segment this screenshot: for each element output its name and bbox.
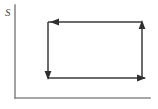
diagram-background: [0, 0, 158, 109]
y-axis-label: S: [5, 6, 11, 18]
diagram-canvas: S: [0, 0, 158, 109]
entropy-cycle-diagram: S: [0, 0, 158, 109]
